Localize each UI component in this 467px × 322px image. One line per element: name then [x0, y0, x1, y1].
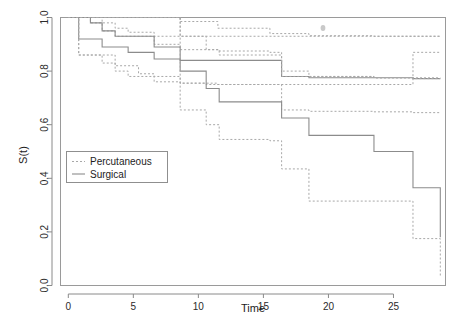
legend-label-surgical: Surgical [90, 169, 126, 180]
x-tick-label: 20 [323, 301, 335, 312]
y-tick-label: 0.4 [39, 171, 50, 185]
y-tick-label: 0.0 [39, 278, 50, 292]
y-tick-label: 0.8 [39, 64, 50, 78]
x-tick-label: 10 [193, 301, 205, 312]
y-tick-label: 1.0 [39, 10, 50, 24]
scan-artifact-speck [321, 25, 326, 31]
km-survival-chart: 0.00.20.40.60.81.0 0510152025 Time S(t) … [0, 0, 467, 322]
x-tick-label: 0 [66, 301, 72, 312]
y-tick-label: 0.2 [39, 225, 50, 239]
x-axis-title: Time [241, 302, 265, 314]
legend-label-percutaneous: Percutaneous [90, 156, 152, 167]
x-tick-label: 5 [131, 301, 137, 312]
y-tick-label: 0.6 [39, 117, 50, 131]
chart-legend: Percutaneous Surgical [67, 152, 168, 183]
chart-canvas: 0.00.20.40.60.81.0 0510152025 Time S(t) … [0, 0, 467, 322]
y-axis-title: S(t) [17, 146, 29, 164]
x-tick-label: 25 [388, 301, 400, 312]
